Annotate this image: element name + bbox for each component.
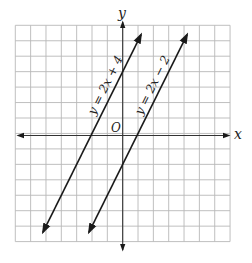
coordinate-graph: y x O y = 2x + 4 y = 2x − 2: [0, 0, 252, 263]
origin-label: O: [111, 121, 121, 135]
y-axis-label: y: [117, 5, 127, 21]
x-axis-label: x: [234, 126, 242, 142]
